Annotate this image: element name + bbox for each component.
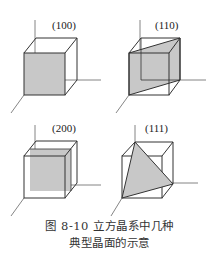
label-110: (110): [155, 19, 178, 31]
label-200: (200): [52, 122, 76, 134]
panel-110: [116, 20, 206, 113]
plane-111: [122, 142, 173, 198]
figure-caption-line2: 典型晶面的示意: [0, 234, 219, 250]
x-axis: [11, 95, 24, 113]
panel-100: [11, 20, 101, 113]
plane-100: [24, 53, 65, 95]
label-100: (100): [52, 19, 76, 31]
plane-110: [129, 38, 180, 95]
panel-111: [111, 125, 198, 216]
figure-caption-line1: 图 8-10 立方晶系中几种: [0, 217, 219, 233]
label-111: (111): [145, 122, 168, 134]
panel-200: [11, 125, 101, 216]
